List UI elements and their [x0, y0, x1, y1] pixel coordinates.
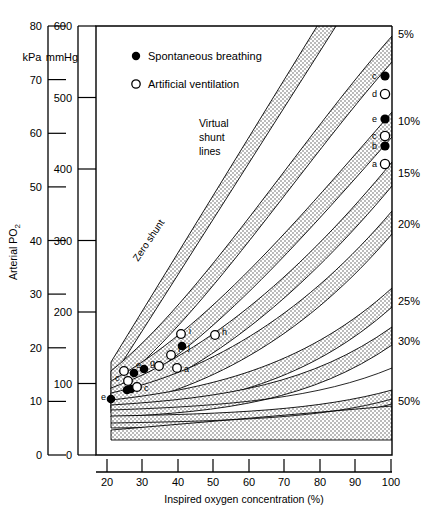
kpa-tick-20: 20	[30, 342, 42, 354]
shunt-label-15: 15%	[398, 167, 420, 179]
kpa-unit-label: kPa	[23, 51, 43, 63]
data-point-label: c	[372, 71, 377, 81]
data-point-label: i	[189, 326, 191, 336]
x-tick-70: 70	[278, 476, 290, 488]
data-point-label: e	[136, 360, 141, 370]
shunt-label-20: 20%	[398, 218, 420, 230]
data-point-label: h	[222, 327, 227, 337]
x-tick-20: 20	[101, 476, 113, 488]
x-tick-40: 40	[172, 476, 184, 488]
data-point-label: e	[101, 392, 106, 402]
kpa-tick-70: 70	[30, 74, 42, 86]
x-axis-title: Inspired oxygen concentration (%)	[164, 493, 323, 505]
kpa-tick-0: 0	[36, 449, 42, 461]
kpa-tick-30: 30	[30, 288, 42, 300]
x-tick-30: 30	[136, 476, 148, 488]
kpa-tick-80: 80	[30, 20, 42, 32]
data-point	[124, 377, 133, 386]
mmhg-tick-200: 200	[54, 306, 72, 318]
data-point-label: e	[372, 114, 377, 124]
kpa-tick-10: 10	[30, 395, 42, 407]
data-point-label: b	[372, 141, 377, 151]
y-axis-title-text: Arterial PO	[7, 229, 19, 280]
data-point-label: g	[150, 358, 155, 368]
mmhg-unit-label: mmHg	[46, 51, 78, 63]
virtual-shunt-line-1: Virtual	[199, 117, 229, 129]
virtual-shunt-line-3: lines	[199, 145, 221, 157]
data-point-label: c	[115, 373, 120, 383]
kpa-tick-40: 40	[30, 235, 42, 247]
mmhg-tick-0: 0	[66, 449, 72, 461]
legend-filled-circle-icon	[132, 52, 140, 60]
x-tick-90: 90	[349, 476, 361, 488]
data-point-label: c	[144, 383, 149, 393]
x-tick-50: 50	[207, 476, 219, 488]
kpa-tick-50: 50	[30, 181, 42, 193]
y-axis-title-subscript: 2	[13, 224, 22, 229]
mmhg-tick-400: 400	[54, 163, 72, 175]
legend-open-circle-icon	[132, 80, 140, 88]
shunt-label-25: 25%	[398, 295, 420, 307]
shunt-label-50: 50%	[398, 395, 420, 407]
shunt-label-30: 30%	[398, 335, 420, 347]
shunt-label-5: 5%	[398, 28, 414, 40]
legend-label-artificial: Artificial ventilation	[148, 78, 239, 90]
data-point-label: a	[372, 159, 377, 169]
chart-svg: Zero shunt Virtual shunt lines Spontaneo…	[0, 0, 433, 513]
x-tick-60: 60	[243, 476, 255, 488]
mmhg-tick-500: 500	[54, 92, 72, 104]
x-tick-80: 80	[314, 476, 326, 488]
x-tick-100: 100	[382, 476, 400, 488]
data-point-label: a	[184, 364, 189, 374]
kpa-tick-60: 60	[30, 127, 42, 139]
mmhg-tick-100: 100	[54, 378, 72, 390]
data-point-label: j	[187, 342, 190, 352]
data-point-label: c	[372, 131, 377, 141]
shunt-label-10: 10%	[398, 115, 420, 127]
virtual-shunt-chart: Zero shunt Virtual shunt lines Spontaneo…	[0, 0, 433, 513]
virtual-shunt-line-2: shunt	[199, 131, 225, 143]
legend-label-spontaneous: Spontaneous breathing	[148, 50, 262, 62]
data-point-label: d	[372, 89, 377, 99]
